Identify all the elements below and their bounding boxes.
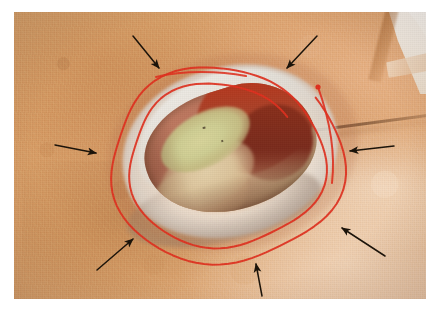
arrow-bottom-center [256,264,262,296]
arrow-bottom-left [97,239,133,270]
arrow-top-left [133,36,159,68]
arrow-top-right [287,36,317,68]
arrow-right [350,146,394,151]
annotation-arrows [14,12,426,299]
screenshot-root [0,0,438,315]
arrow-bottom-right [342,228,385,256]
clinical-photograph [14,12,426,299]
arrow-left [55,145,96,153]
